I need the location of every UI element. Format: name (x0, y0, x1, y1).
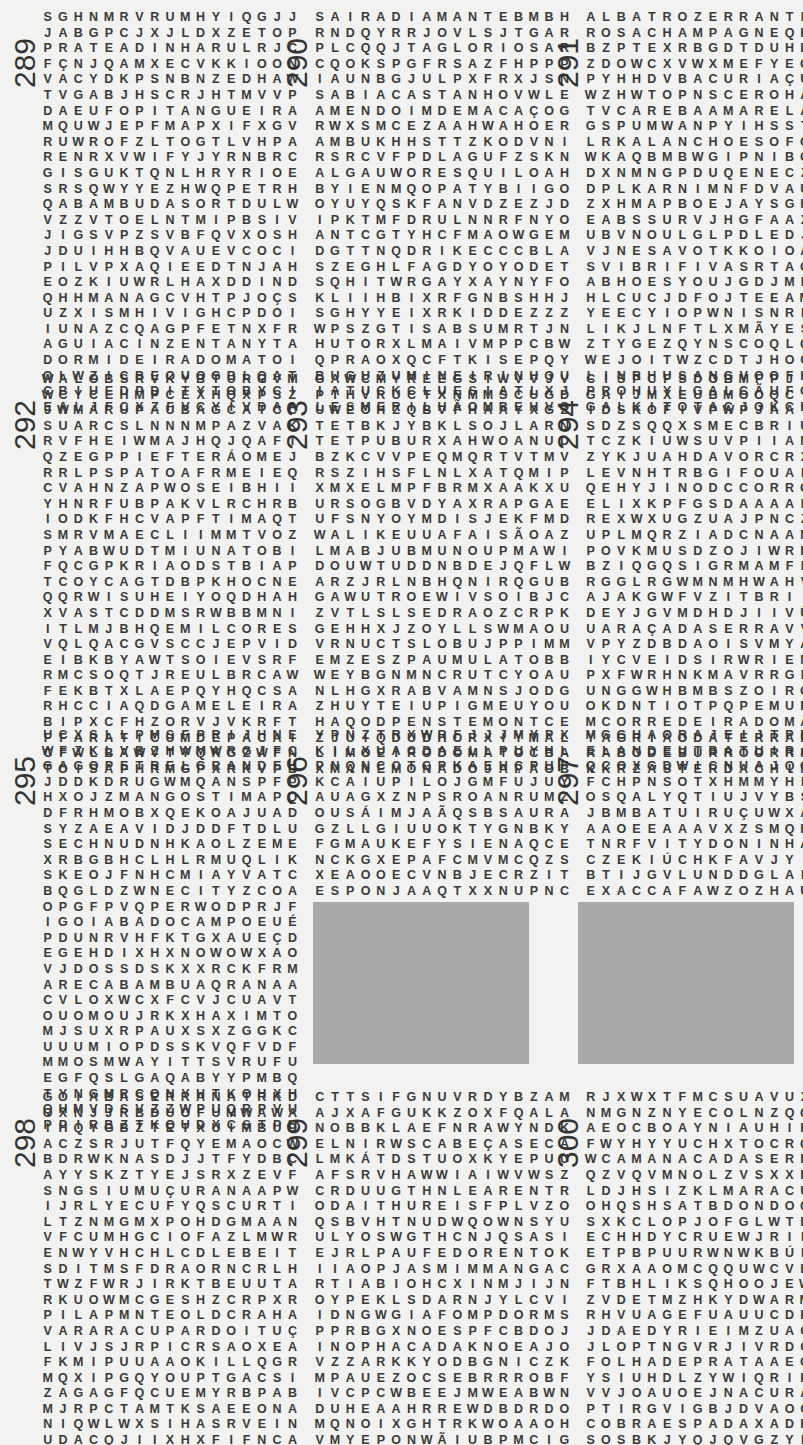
grid-letter: L (40, 1215, 55, 1231)
grid-letter: P (496, 544, 511, 560)
grid-letter: A (404, 88, 419, 104)
grid-letter: A (644, 1417, 659, 1433)
grid-letter: B (358, 1121, 373, 1137)
grid-letter: F (116, 135, 131, 151)
grid-letter: R (419, 1402, 434, 1418)
grid-letter: M (178, 868, 193, 884)
grid-letter: I (557, 1293, 572, 1309)
grid-letter: Y (614, 1137, 629, 1153)
grid-letter: V (285, 213, 300, 229)
grid-letter: V (583, 244, 598, 260)
grid-letter: H (782, 41, 797, 57)
grid-letter: S (116, 372, 131, 388)
grid-letter: F (388, 150, 403, 166)
grid-letter: V (116, 931, 131, 947)
grid-letter: Y (208, 150, 223, 166)
grid-row: LMABJUBMUNOUPMAWI (312, 544, 572, 560)
grid-letter: J (557, 1324, 572, 1340)
grid-letter: A (496, 497, 511, 513)
grid-letter: I (751, 434, 766, 450)
grid-letter: A (767, 1402, 782, 1418)
grid-letter: R (419, 244, 434, 260)
grid-letter: W (659, 590, 674, 606)
grid-letter: D (721, 1199, 736, 1215)
grid-letter: P (193, 575, 208, 591)
grid-letter: S (358, 1090, 373, 1106)
grid-letter: G (659, 166, 674, 182)
grid-letter: A (782, 528, 797, 544)
grid-letter: E (767, 166, 782, 182)
grid-letter: L (598, 10, 613, 26)
grid-letter: F (178, 728, 193, 744)
grid-letter: A (511, 837, 526, 853)
grid-letter: A (358, 1355, 373, 1371)
grid-letter: C (116, 337, 131, 353)
grid-letter: U (629, 1308, 644, 1324)
grid-letter: D (285, 275, 300, 291)
grid-row: NLHGXRABVAMNSJODG (312, 684, 572, 700)
grid-letter: U (705, 166, 720, 182)
grid-letter: P (690, 1417, 705, 1433)
grid-letter: E (782, 1355, 797, 1371)
grid-letter: R (373, 1355, 388, 1371)
grid-letter: A (178, 1324, 193, 1340)
grid-letter: Z (767, 1433, 782, 1445)
grid-letter: K (465, 1340, 480, 1356)
grid-letter: Z (71, 1215, 86, 1231)
grid-letter: T (86, 1262, 101, 1278)
grid-letter: O (721, 544, 736, 560)
grid-letter: I (116, 434, 131, 450)
grid-letter: I (327, 744, 342, 760)
grid-letter: H (358, 622, 373, 638)
grid-letter: X (239, 228, 254, 244)
grid-letter: D (721, 868, 736, 884)
grid-letter: M (101, 1055, 116, 1071)
grid-letter: N (434, 868, 449, 884)
grid-letter: S (496, 353, 511, 369)
grid-letter: A (434, 528, 449, 544)
grid-letter: S (208, 559, 223, 575)
grid-letter: U (116, 1355, 131, 1371)
grid-letter: E (343, 104, 358, 120)
grid-letter: F (675, 590, 690, 606)
grid-letter: I (327, 1262, 342, 1278)
grid-letter: P (132, 72, 147, 88)
grid-letter: U (343, 559, 358, 575)
grid-letter: N (193, 104, 208, 120)
grid-letter: O (224, 946, 239, 962)
grid-letter: V (690, 590, 705, 606)
grid-letter: I (285, 353, 300, 369)
grid-letter: U (404, 434, 419, 450)
grid-letter: F (116, 1386, 131, 1402)
grid-letter: I (101, 353, 116, 369)
grid-letter: H (86, 481, 101, 497)
grid-letter: A (736, 104, 751, 120)
grid-letter: E (767, 291, 782, 307)
grid-letter: A (343, 775, 358, 791)
grid-letter: V (614, 466, 629, 482)
grid-letter: D (285, 806, 300, 822)
grid-letter: S (496, 388, 511, 404)
grid-letter: A (644, 182, 659, 198)
grid-letter: U (404, 1106, 419, 1122)
grid-letter: I (193, 622, 208, 638)
grid-letter: F (101, 497, 116, 513)
grid-letter: Y (71, 388, 86, 404)
grid-letter: E (162, 884, 177, 900)
grid-letter: S (239, 775, 254, 791)
grid-letter: B (541, 337, 556, 353)
grid-letter: A (86, 403, 101, 419)
grid-letter: H (254, 497, 269, 513)
grid-letter: O (71, 915, 86, 931)
grid-letter: E (178, 388, 193, 404)
grid-letter: R (675, 728, 690, 744)
grid-letter: T (178, 1055, 193, 1071)
grid-row: DEYJGVMDHDJIIVÜVE (583, 606, 803, 622)
grid-letter: Q (404, 182, 419, 198)
grid-letter: P (239, 900, 254, 916)
grid-letter: G (419, 275, 434, 291)
grid-letter: A (496, 403, 511, 419)
grid-letter: A (690, 637, 705, 653)
grid-letter: B (450, 637, 465, 653)
grid-letter: F (86, 900, 101, 916)
